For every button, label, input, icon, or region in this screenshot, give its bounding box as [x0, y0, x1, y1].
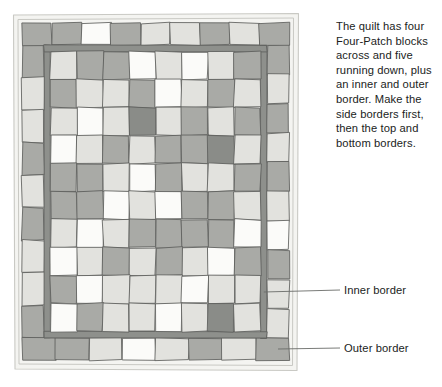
outer-border-patch-bottom-2 — [89, 337, 122, 360]
patch-r9-c0 — [51, 303, 78, 332]
patch-r0-c7 — [234, 51, 262, 79]
patch-r2-c7 — [235, 107, 261, 136]
outer-border-patch-right-2 — [266, 104, 288, 133]
patch-r0-c1 — [77, 51, 104, 81]
patch-r8-c1 — [76, 275, 103, 303]
outer-border-patch-top-5 — [170, 23, 201, 46]
outer-border-patch-left-0 — [22, 45, 44, 78]
callout-label-inner-border: Inner border — [344, 284, 406, 297]
outer-border-patch-right-9 — [266, 309, 289, 339]
patch-r3-c2 — [102, 135, 128, 163]
patch-r0-c4 — [155, 51, 182, 80]
patch-r1-c1 — [76, 79, 104, 108]
patch-r5-c4 — [155, 192, 182, 219]
patch-r7-c4 — [156, 247, 183, 276]
outer-border-patch-bottom-0 — [22, 337, 56, 360]
patch-r6-c2 — [102, 219, 129, 248]
patch-r8-c7 — [235, 275, 261, 304]
patch-r8-c4 — [156, 275, 183, 304]
outer-border-patch-right-4 — [267, 161, 290, 191]
patch-r7-c6 — [207, 247, 234, 276]
patch-r0-c2 — [103, 52, 130, 80]
outer-border-patch-left-8 — [22, 305, 45, 338]
inner-border-strip-left — [44, 45, 50, 338]
outer-border-patch-left-3 — [22, 142, 45, 176]
outer-border-patch-right-6 — [267, 220, 289, 250]
patch-r3-c6 — [207, 135, 235, 164]
patch-r4-c1 — [77, 164, 103, 192]
patch-r1-c2 — [102, 79, 129, 107]
patch-r8-c6 — [208, 275, 234, 304]
outer-border-patch-left-2 — [22, 109, 44, 143]
patch-r1-c0 — [50, 79, 77, 108]
patch-r6-c7 — [234, 219, 262, 247]
patch-r9-c6 — [207, 304, 233, 333]
outer-border-patch-bottom-3 — [122, 338, 156, 360]
outer-border-patch-left-4 — [21, 175, 44, 208]
outer-border-patch-right-3 — [266, 132, 289, 162]
patch-r0-c6 — [208, 51, 235, 79]
patch-r6-c6 — [208, 220, 234, 249]
patch-r1-c7 — [233, 79, 261, 107]
outer-border-patch-right-7 — [268, 250, 290, 279]
patch-r5-c5 — [181, 191, 208, 219]
patch-r8-c3 — [129, 275, 156, 303]
outer-border-patch-left-7 — [22, 272, 45, 306]
outer-border-patch-bottom-5 — [188, 338, 222, 360]
patch-r1-c5 — [181, 80, 208, 109]
patch-r5-c3 — [129, 191, 156, 220]
patch-r3-c0 — [51, 135, 77, 164]
patch-r2-c5 — [181, 107, 207, 136]
patch-r5-c7 — [234, 191, 261, 220]
instruction-note: The quilt has four Four-Patch blocks acr… — [336, 19, 440, 150]
inner-border-strip-right — [261, 45, 267, 338]
patch-r5-c6 — [208, 191, 235, 220]
outer-border-patch-right-1 — [267, 74, 289, 104]
patch-r9-c7 — [233, 303, 260, 332]
patch-r4-c4 — [155, 163, 181, 192]
patch-r9-c5 — [181, 303, 208, 332]
outer-border-patch-top-6 — [200, 23, 230, 46]
patch-r7-c3 — [129, 248, 156, 276]
patch-r4-c3 — [130, 164, 156, 192]
patch-r6-c0 — [51, 219, 77, 249]
patch-r8-c5 — [181, 275, 209, 303]
outer-border-patch-top-4 — [141, 22, 170, 46]
patch-r4-c7 — [234, 164, 261, 191]
patch-r8-c2 — [102, 275, 130, 304]
patch-r7-c1 — [77, 247, 103, 276]
outer-border-patch-bottom-6 — [221, 338, 256, 360]
patch-r9-c3 — [129, 303, 155, 331]
patch-r4-c5 — [181, 163, 208, 192]
patch-r7-c0 — [50, 247, 78, 276]
patch-r4-c0 — [50, 163, 76, 192]
outer-border-patch-top-7 — [229, 22, 260, 45]
outer-border-patch-right-5 — [266, 191, 289, 221]
outer-border-patch-left-6 — [22, 239, 45, 272]
patch-r3-c1 — [76, 135, 103, 164]
patch-r6-c1 — [77, 219, 104, 248]
outer-border-patch-top-0 — [22, 23, 52, 46]
patch-r7-c5 — [182, 247, 209, 276]
patch-r4-c6 — [207, 163, 234, 192]
outer-border-patch-left-5 — [21, 207, 44, 241]
patch-r1-c6 — [208, 79, 235, 107]
patch-r5-c2 — [103, 191, 130, 220]
quilt-diagram-figure: The quilt has four Four-Patch blocks acr… — [0, 0, 442, 387]
patch-r8-c0 — [50, 276, 78, 304]
patch-r6-c5 — [181, 220, 208, 248]
patch-r1-c3 — [129, 80, 155, 109]
patch-r9-c2 — [102, 303, 129, 332]
outer-border-patch-left-1 — [21, 77, 45, 111]
patch-r2-c4 — [156, 107, 182, 136]
patch-r0-c0 — [50, 51, 77, 80]
outer-border-patch-bottom-4 — [155, 338, 190, 361]
patch-r2-c1 — [77, 107, 103, 136]
patch-r5-c1 — [77, 191, 104, 219]
outer-border-patch-top-3 — [110, 23, 141, 46]
patch-r3-c5 — [181, 135, 209, 164]
outer-border-patch-top-2 — [81, 22, 111, 44]
patch-r2-c6 — [208, 107, 234, 137]
patch-r6-c4 — [156, 219, 183, 248]
patch-r7-c7 — [234, 247, 261, 276]
